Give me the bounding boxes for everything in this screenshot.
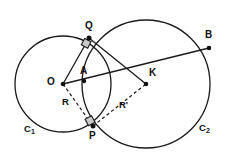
- point-label-p: P: [89, 131, 96, 141]
- point-q-dot: [87, 36, 92, 41]
- point-label-a: A: [80, 66, 87, 76]
- circle-label-c1-text: C: [24, 123, 31, 134]
- circle-label-c2: C2: [199, 123, 210, 133]
- radius-label-r: R: [62, 97, 69, 107]
- circle-label-c2-sub: 2: [206, 127, 210, 134]
- segment-q-k: [89, 38, 146, 84]
- point-a-dot: [82, 79, 86, 83]
- circle-label-c2-text: C: [199, 122, 206, 133]
- point-label-o: O: [47, 77, 55, 87]
- geometry-diagram: O K Q P A B R R' C1 C2: [0, 0, 226, 158]
- circle-label-c1-sub: 1: [31, 128, 35, 135]
- point-k-dot: [144, 82, 149, 87]
- circle-label-c1: C1: [24, 124, 35, 134]
- radius-label-r-prime: R': [119, 100, 128, 110]
- point-p-dot: [91, 124, 96, 129]
- point-label-b: B: [205, 30, 212, 40]
- point-b-dot: [207, 46, 212, 51]
- point-label-q: Q: [85, 21, 93, 31]
- point-label-k: K: [149, 68, 156, 78]
- point-o-dot: [61, 82, 66, 87]
